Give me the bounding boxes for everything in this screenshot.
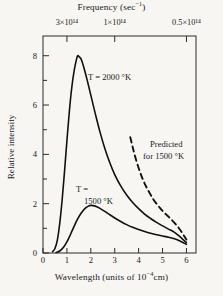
series-label-1500K-line1: T = [76, 184, 88, 194]
plot-area [0, 0, 223, 296]
series-label-predicted-line1: Predicted [150, 139, 182, 149]
blackbody-radiation-chart: Frequency (sec−1) 3×10¹⁴1×10¹⁴0.5×10¹⁴ 0… [0, 0, 223, 296]
series-label-1500K-line2: 1500 °K [84, 196, 113, 206]
series-label-predicted-line2: for 1500 °K [143, 151, 184, 161]
series-label-2000K: T = 2000 °K [88, 72, 131, 82]
